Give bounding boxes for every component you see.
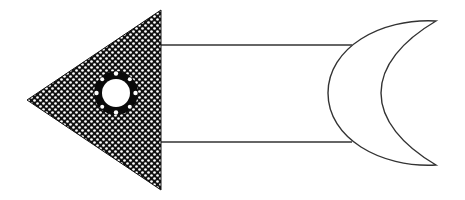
arrow-diagram — [0, 0, 465, 200]
arrowhead — [27, 10, 161, 190]
crescent-tail — [328, 21, 436, 165]
shaft — [161, 45, 352, 142]
hole-ring — [94, 71, 138, 115]
